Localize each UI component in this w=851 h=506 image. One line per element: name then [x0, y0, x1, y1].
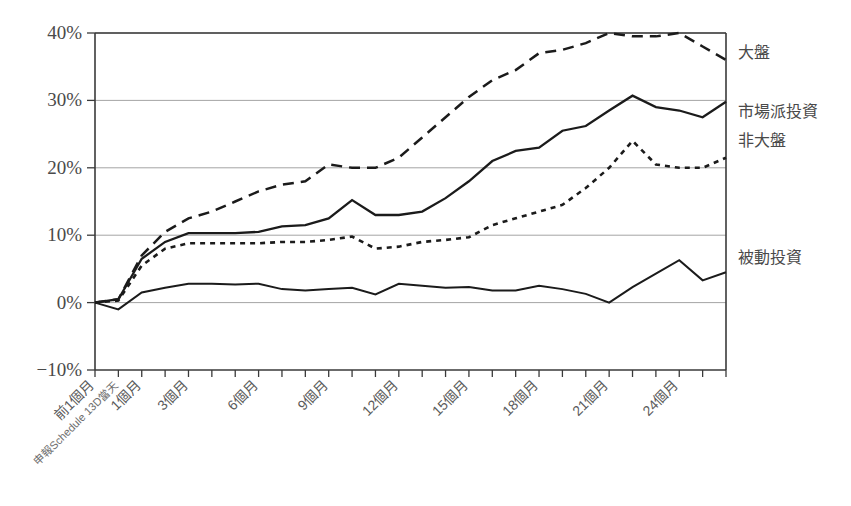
- legend-label: 非大盤: [738, 132, 786, 149]
- y-tick-label: 30%: [47, 89, 82, 110]
- legend-label: 大盤: [738, 44, 770, 61]
- y-tick-label: 10%: [47, 224, 82, 245]
- legend-label: 被動投資: [738, 249, 802, 266]
- chart-figure: 40%30%20%10%0%−10% 前1個月申報Schedule 13D當天1…: [0, 0, 851, 506]
- chart-background: [0, 0, 851, 506]
- y-tick-label: 0%: [57, 292, 83, 313]
- y-tick-label: 20%: [47, 157, 82, 178]
- legend-label: 市場派投資: [738, 103, 818, 120]
- y-tick-label: 40%: [47, 22, 82, 43]
- y-tick-label: −10%: [36, 359, 82, 380]
